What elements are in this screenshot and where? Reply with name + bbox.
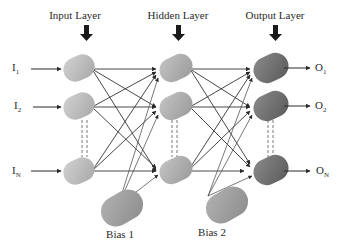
layer-down-arrows (80, 25, 282, 41)
hidden-layer-nodes (156, 50, 197, 188)
neural-network-diagram (0, 0, 341, 252)
bias-1-label: Bias 1 (106, 228, 134, 240)
input-node-n (59, 153, 98, 188)
input-hidden-edges (92, 69, 156, 171)
input-node-2 (59, 88, 98, 123)
hidden-down-arrow-icon (172, 25, 185, 41)
bias-node-2 (200, 181, 253, 229)
output-label-1: O1 (315, 61, 326, 76)
output-node-n (249, 151, 293, 190)
input-label-2: I2 (14, 99, 21, 114)
output-down-arrow-icon (269, 25, 282, 41)
output-label-2: O2 (315, 99, 326, 114)
input-arrows (31, 69, 61, 171)
hidden-output-edges (188, 69, 250, 171)
input-layer-nodes (59, 50, 98, 188)
input-down-arrow-icon (80, 25, 93, 41)
bias-nodes (95, 181, 253, 232)
hidden-node-1 (156, 50, 197, 86)
ellipsis-dashes (82, 120, 273, 157)
bias-2-label: Bias 2 (198, 226, 226, 238)
bias-node-1 (95, 184, 148, 232)
hidden-layer-title: Hidden Layer (148, 9, 209, 21)
input-label-n: IN (12, 164, 21, 179)
hidden-node-n (156, 152, 197, 188)
hidden-node-2 (156, 88, 197, 124)
bias2-edges (208, 78, 252, 196)
output-layer-nodes (249, 49, 293, 190)
bias1-edges (118, 78, 158, 206)
input-layer-title: Input Layer (49, 9, 101, 21)
output-layer-title: Output Layer (246, 9, 305, 21)
output-label-n: ON (316, 164, 329, 179)
input-label-1: I1 (12, 61, 19, 76)
output-arrows (284, 68, 310, 171)
input-node-1 (59, 50, 98, 85)
